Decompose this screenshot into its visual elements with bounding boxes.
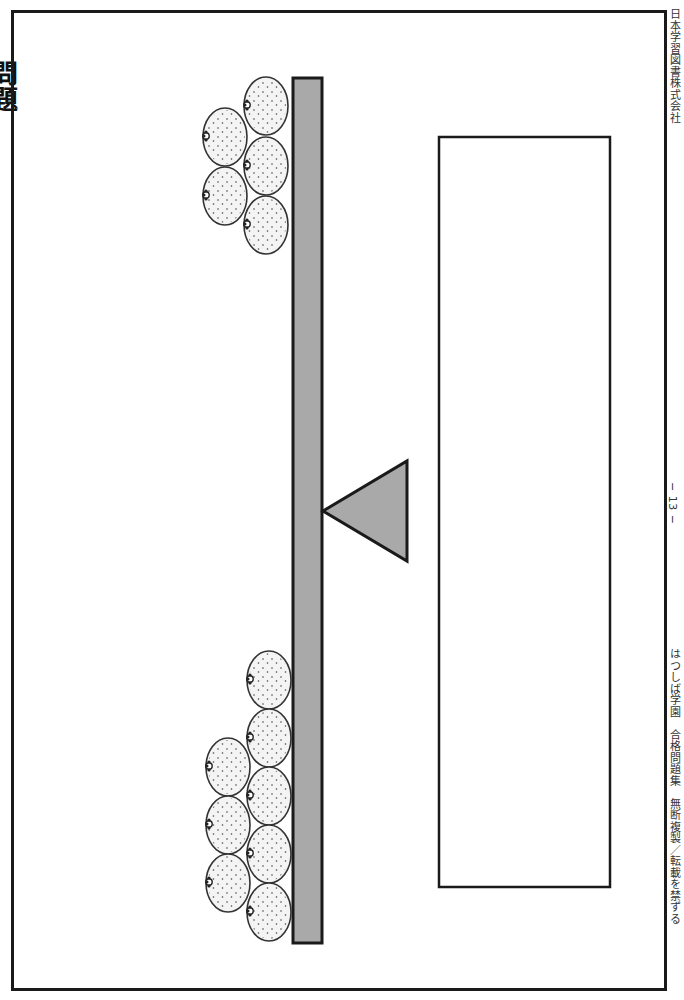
orange: [247, 825, 292, 883]
orange: [206, 854, 251, 912]
orange: [244, 77, 289, 135]
fulcrum-triangle: [323, 461, 407, 561]
orange: [206, 796, 251, 854]
orange: [247, 709, 292, 767]
seesaw-illustration: [0, 0, 684, 1000]
orange: [244, 196, 289, 254]
orange: [247, 651, 292, 709]
orange: [203, 108, 248, 166]
orange: [247, 883, 292, 941]
orange: [203, 167, 248, 225]
orange-group-top: [203, 77, 289, 254]
publisher-name: 日本学習図書株式会社: [666, 8, 682, 123]
orange-group-bottom: [206, 651, 292, 941]
orange: [247, 767, 292, 825]
beam-bar: [293, 78, 322, 943]
answer-box[interactable]: [439, 137, 610, 887]
answer-box-rect[interactable]: [439, 137, 610, 887]
orange: [244, 137, 289, 195]
copyright-notice: はつしば学園 合格問題集 無断複製／転載を禁ずる: [666, 648, 682, 924]
seesaw-fulcrum: [323, 461, 407, 561]
page-number: − 13 −: [666, 482, 679, 524]
orange: [206, 738, 251, 796]
seesaw-beam: [293, 78, 322, 943]
